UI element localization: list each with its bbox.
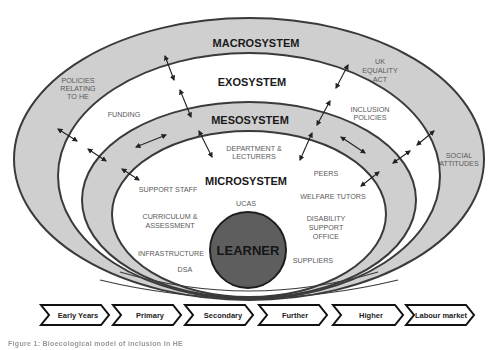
- svg-text:DISABILITY: DISABILITY: [307, 214, 346, 223]
- svg-text:Higher: Higher: [359, 311, 383, 320]
- svg-text:UK: UK: [375, 57, 385, 66]
- item-suppliers: SUPPLIERS: [293, 256, 334, 265]
- svg-text:ASSESSMENT: ASSESSMENT: [145, 221, 195, 230]
- macrosystem-label: MACROSYSTEM: [213, 37, 300, 49]
- timeline: Early Years Primary Secondary Further Hi…: [41, 305, 474, 325]
- svg-text:SUPPORT: SUPPORT: [309, 223, 344, 232]
- microsystem-label: MICROSYSTEM: [205, 175, 287, 187]
- timeline-step-secondary: Secondary: [185, 305, 253, 325]
- svg-text:LECTURERS: LECTURERS: [232, 152, 276, 161]
- svg-text:CURRICULUM &: CURRICULUM &: [142, 212, 197, 221]
- svg-text:OFFICE: OFFICE: [313, 232, 340, 241]
- svg-text:Early Years: Early Years: [58, 311, 98, 320]
- exosystem-label: EXOSYSTEM: [218, 76, 286, 88]
- timeline-step-higher: Higher: [333, 305, 403, 325]
- item-welfare-tutors: WELFARE TUTORS: [300, 192, 366, 201]
- timeline-step-labour-market: Labour market: [406, 305, 474, 325]
- item-department-lecturers: DEPARTMENT & LECTURERS: [226, 144, 282, 161]
- item-infrastructure: INFRASTRUCTURE: [138, 249, 204, 258]
- svg-text:POLICIES: POLICIES: [353, 113, 386, 122]
- learner-label: LEARNER: [217, 243, 280, 258]
- timeline-step-early-years: Early Years: [41, 305, 109, 325]
- item-inclusion-policies: INCLUSION POLICIES: [350, 105, 389, 122]
- item-dsa: DSA: [178, 265, 193, 274]
- timeline-step-further: Further: [259, 305, 327, 325]
- item-support-staff: SUPPORT STAFF: [139, 185, 198, 194]
- figure-caption: Figure 1: Bioecological model of inclusi…: [8, 340, 183, 347]
- svg-text:ACT: ACT: [373, 75, 388, 84]
- svg-text:TO HE: TO HE: [67, 92, 89, 101]
- svg-text:Further: Further: [282, 311, 308, 320]
- item-curriculum-assessment: CURRICULUM & ASSESSMENT: [142, 212, 197, 230]
- svg-text:EQUALITY: EQUALITY: [362, 66, 398, 75]
- svg-text:ATTITUDES: ATTITUDES: [439, 159, 479, 168]
- svg-text:Primary: Primary: [136, 311, 165, 320]
- bioecological-diagram: LEARNER MACROSYSTEM EXOSYSTEM MESOSYSTEM…: [0, 0, 498, 350]
- mesosystem-label: MESOSYSTEM: [211, 114, 289, 126]
- timeline-step-primary: Primary: [113, 305, 181, 325]
- svg-text:Labour market: Labour market: [415, 311, 468, 320]
- item-funding: FUNDING: [108, 110, 141, 119]
- item-ucas: UCAS: [236, 199, 256, 208]
- svg-text:Secondary: Secondary: [204, 311, 243, 320]
- item-peers: PEERS: [314, 169, 339, 178]
